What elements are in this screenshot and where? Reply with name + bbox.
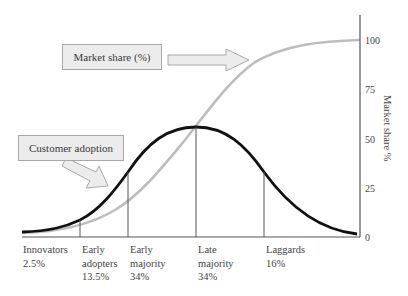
segment-label-late-majority: Late majority 34%: [198, 243, 234, 284]
segment-label-early-adopters: Early adopters 13.5%: [82, 243, 118, 284]
segment-label-early-majority: Early majority 34%: [130, 243, 166, 284]
y-tick-50: 50: [365, 134, 375, 145]
y-tick-100: 100: [365, 35, 380, 46]
y-tick-25: 25: [365, 183, 375, 194]
market-share-callout: Market share (%): [62, 44, 162, 70]
market-share-callout-label: Market share (%): [74, 51, 151, 63]
customer-adoption-arrow-icon: [62, 158, 108, 188]
customer-adoption-callout-label: Customer adoption: [29, 142, 113, 154]
segment-label-innovators: Innovators 2.5%: [23, 243, 68, 270]
y-tick-0: 0: [365, 232, 370, 243]
y-tick-75: 75: [365, 84, 375, 95]
segment-label-laggards: Laggards 16%: [266, 243, 305, 270]
customer-adoption-callout: Customer adoption: [18, 135, 124, 161]
y-axis-title: Market share %: [382, 95, 393, 161]
market-share-arrow-icon: [168, 49, 249, 71]
